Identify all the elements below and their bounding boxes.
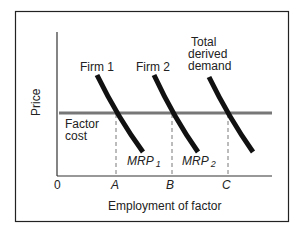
- total-label-line3: demand: [188, 59, 231, 73]
- mrp1-label: MRP1: [127, 154, 161, 169]
- factor-cost-label-line2: cost: [65, 129, 88, 143]
- x-tick-b: B: [166, 178, 174, 192]
- firm2-label: Firm 2: [136, 60, 170, 74]
- x-tick-c: C: [222, 178, 231, 192]
- x-axis-label: Employment of factor: [108, 199, 221, 213]
- y-axis-label: Price: [29, 88, 43, 116]
- mrp2-label: MRP2: [182, 154, 216, 169]
- x-tick-a: A: [110, 178, 119, 192]
- derived-demand-diagram: Price Firm 1 Firm 2 Total derived demand…: [0, 0, 301, 237]
- firm1-label: Firm 1: [80, 60, 114, 74]
- origin-label: 0: [54, 178, 61, 192]
